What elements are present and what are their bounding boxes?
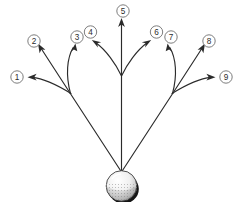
flight-path-3-arrowhead: [71, 43, 78, 52]
flight-paths-svg: 1 2 3 4 5 6: [0, 0, 237, 202]
path-label-4-text: 4: [88, 28, 93, 37]
path-label-1[interactable]: 1: [11, 71, 23, 83]
path-label-3-text: 3: [75, 33, 80, 42]
golf-flight-diagram: 1 2 3 4 5 6: [0, 0, 237, 202]
flight-path-2-line: [41, 48, 71, 94]
path-label-3[interactable]: 3: [71, 31, 83, 43]
flight-path-4-line: [96, 43, 122, 77]
flight-path-2: [38, 44, 70, 93]
path-label-7[interactable]: 7: [165, 31, 177, 43]
path-label-6[interactable]: 6: [150, 26, 162, 38]
path-label-2-text: 2: [32, 37, 37, 46]
path-label-5-text: 5: [121, 7, 126, 16]
flight-path-7-line: [170, 48, 176, 94]
flight-path-5: [118, 18, 125, 172]
flight-path-6: [122, 40, 152, 76]
flight-stem-left: [70, 93, 122, 172]
flight-path-7: [166, 43, 176, 93]
path-label-7-text: 7: [169, 33, 174, 42]
path-label-8[interactable]: 8: [203, 35, 215, 47]
flight-path-8-line: [173, 48, 203, 94]
flight-path-9-arrowhead: [206, 74, 215, 81]
path-label-2[interactable]: 2: [28, 35, 40, 47]
flight-path-7-arrowhead: [166, 43, 173, 52]
flight-path-3: [68, 43, 78, 93]
path-label-9[interactable]: 9: [220, 71, 232, 83]
path-label-8-text: 8: [207, 37, 212, 46]
flight-path-4: [92, 40, 122, 76]
path-label-6-text: 6: [154, 28, 159, 37]
flight-path-8: [173, 44, 205, 93]
path-label-1-text: 1: [15, 73, 20, 82]
flight-stem-right: [122, 93, 174, 172]
flight-path-1-arrowhead: [28, 74, 37, 81]
path-label-5[interactable]: 5: [117, 5, 129, 17]
golf-ball: [106, 171, 139, 202]
flight-path-3-line: [68, 48, 74, 94]
flight-path-6-line: [122, 43, 148, 77]
path-label-9-text: 9: [224, 73, 229, 82]
path-label-4[interactable]: 4: [84, 26, 96, 38]
